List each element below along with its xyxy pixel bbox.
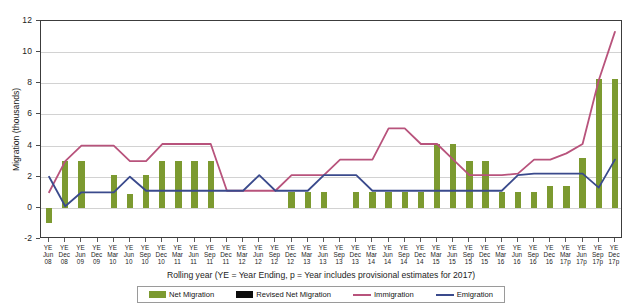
y-axis-tick-label: 10 [6, 46, 32, 56]
x-axis-tick-mark [371, 238, 372, 242]
line-immigration [49, 32, 615, 192]
x-axis-tick-mark [291, 238, 292, 242]
x-axis-tick-mark [388, 238, 389, 242]
y-axis-tick-label: -2 [6, 233, 32, 243]
y-axis-tick-label: 4 [6, 140, 32, 150]
x-axis-tick-mark [404, 238, 405, 242]
legend-label: Immigration [374, 290, 414, 299]
x-axis-tick-mark [339, 238, 340, 242]
x-axis-tick-label-line: Dec [603, 251, 625, 258]
x-axis-tick-mark [64, 238, 65, 242]
x-axis-tick-mark [274, 238, 275, 242]
x-axis-tick-mark [549, 238, 550, 242]
x-axis-tick-mark [517, 238, 518, 242]
x-axis-tick-mark [582, 238, 583, 242]
legend-label: Emigration [457, 290, 493, 299]
x-axis-tick-mark [598, 238, 599, 242]
legend-swatch-icon [236, 291, 253, 298]
x-axis-tick-mark [420, 238, 421, 242]
legend-label: Revised Net Migration [256, 290, 331, 299]
legend-item-revised-net-migration[interactable]: Revised Net Migration [236, 290, 331, 299]
y-axis-tick-label: 0 [6, 202, 32, 212]
y-axis-tick-label: 12 [6, 15, 32, 25]
x-axis-tick-label-line: YE [603, 244, 625, 251]
legend-item-net-migration[interactable]: Net Migration [149, 290, 214, 299]
legend-item-immigration[interactable]: Immigration [353, 290, 414, 299]
x-axis-tick-mark [48, 238, 49, 242]
x-axis-tick-mark [355, 238, 356, 242]
x-axis-tick-mark [323, 238, 324, 242]
x-axis-tick-mark [242, 238, 243, 242]
x-axis-tick-mark [161, 238, 162, 242]
y-axis-tick-mark [36, 238, 40, 239]
x-axis-tick-mark [452, 238, 453, 242]
x-axis-tick-mark [80, 238, 81, 242]
x-axis-tick-mark [97, 238, 98, 242]
x-axis-tick-mark [565, 238, 566, 242]
x-axis-tick-mark [145, 238, 146, 242]
x-axis-tick-mark [177, 238, 178, 242]
data-layer [41, 21, 621, 237]
y-axis-tick-label: 8 [6, 77, 32, 87]
chart-container: Migration (thousands) -2024681012 YEJun0… [0, 0, 642, 307]
legend-swatch-icon [436, 294, 454, 296]
y-axis-tick-label: 2 [6, 171, 32, 181]
x-axis-tick-mark [533, 238, 534, 242]
x-axis-tick-mark [468, 238, 469, 242]
legend-label: Net Migration [169, 290, 214, 299]
x-axis-tick-label-line: 17p [603, 258, 625, 265]
x-axis-tick-mark [129, 238, 130, 242]
chart-title-strip [0, 0, 642, 16]
x-axis-tick-mark [307, 238, 308, 242]
chart-legend: Net MigrationRevised Net MigrationImmigr… [137, 286, 505, 303]
line-series-svg [41, 21, 623, 239]
x-axis-tick-mark [501, 238, 502, 242]
x-axis-tick-mark [226, 238, 227, 242]
x-axis-title: Rolling year (YE = Year Ending, p = Year… [0, 270, 642, 280]
legend-swatch-icon [353, 294, 371, 296]
x-axis-tick-mark [436, 238, 437, 242]
y-axis-title: Migration (thousands) [11, 88, 21, 171]
x-axis-tick-label: YEDec17p [603, 244, 625, 266]
plot-area [40, 20, 622, 238]
x-axis-tick-mark [210, 238, 211, 242]
legend-swatch-icon [149, 291, 166, 298]
y-axis-tick-label: 6 [6, 108, 32, 118]
x-axis-tick-mark [113, 238, 114, 242]
x-axis-tick-mark [258, 238, 259, 242]
legend-item-emigration[interactable]: Emigration [436, 290, 493, 299]
x-axis-tick-mark [194, 238, 195, 242]
x-axis-tick-mark [485, 238, 486, 242]
x-axis-tick-mark [614, 238, 615, 242]
